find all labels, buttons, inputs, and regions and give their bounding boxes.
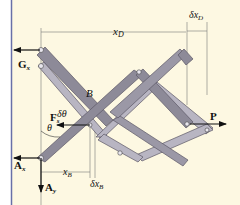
label-b: B: [86, 87, 93, 99]
pin-d: [185, 122, 189, 126]
pin-right-lower: [205, 128, 209, 132]
pin-g-lower: [39, 64, 44, 69]
pin-bottom: [118, 151, 122, 155]
label-dtheta: δθ: [57, 108, 67, 119]
scissor-mechanism-diagram: xD δxD Gx B Fs δθ θ P Ax Ay xB δxB: [0, 0, 240, 205]
label-p: P: [210, 110, 217, 122]
pin-top: [137, 70, 141, 74]
label-theta: θ: [47, 122, 52, 133]
